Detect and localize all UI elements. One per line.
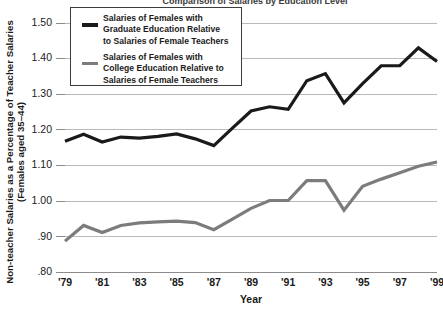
- y-axis-tick-label: 1.10: [32, 158, 53, 170]
- chart-figure: Comparison of Salaries by Education Leve…: [0, 0, 443, 315]
- x-axis-tick-label: '95: [356, 276, 370, 288]
- legend-line-swatch-college-icon: [82, 62, 98, 65]
- x-axis-tick-labels: '79'81'83'85'87'89'91'93'95'97'99: [58, 276, 443, 288]
- x-axis-tick-label: '89: [244, 276, 258, 288]
- legend-item-graduate: Salaries of Females with Graduate Educat…: [77, 13, 237, 47]
- y-axis-title-line-1: Non-teacher Salaries as a Percentage of …: [4, 20, 15, 284]
- legend-swatch-wrap-graduate: [77, 13, 103, 27]
- x-axis-tick-label: '83: [132, 276, 146, 288]
- y-axis-title-line-2: (Females aged 35–44): [15, 102, 26, 202]
- y-axis-title: Non-teacher Salaries as a Percentage of …: [4, 20, 26, 284]
- x-axis-tick-label: '99: [430, 276, 443, 288]
- tickmarks-group: [56, 23, 65, 273]
- legend-label-graduate: Salaries of Females with Graduate Educat…: [103, 13, 228, 47]
- chart-legend: Salaries of Females with Graduate Educat…: [70, 7, 242, 86]
- chart-title: Comparison of Salaries by Education Leve…: [162, 0, 347, 6]
- x-axis-tick-label: '87: [207, 276, 221, 288]
- y-axis-tick-label: 1.00: [32, 194, 53, 206]
- chart-title-group: Comparison of Salaries by Education Leve…: [162, 0, 347, 6]
- legend-label-college: Salaries of Females with College Educati…: [103, 52, 224, 86]
- y-axis-tick-label: 1.40: [32, 51, 53, 63]
- x-axis-title: Year: [240, 293, 262, 305]
- x-axis-tick-label: '79: [58, 276, 72, 288]
- y-axis-tick-label: 1.30: [32, 87, 53, 99]
- x-axis-tick-label: '81: [95, 276, 109, 288]
- y-axis-tick-label: .80: [37, 265, 52, 277]
- x-axis-tick-label: '91: [281, 276, 295, 288]
- legend-line-swatch-graduate-icon: [82, 23, 98, 27]
- legend-swatch-wrap-college: [77, 52, 103, 65]
- y-axis-tick-label: .90: [37, 230, 52, 242]
- y-axis-tick-label: 1.50: [32, 16, 53, 28]
- legend-item-college: Salaries of Females with College Educati…: [77, 52, 237, 86]
- x-axis-tick-label: '93: [318, 276, 332, 288]
- x-axis-tick-label: '85: [170, 276, 184, 288]
- y-axis-tick-labels: 1.501.401.301.201.101.00.90.80: [32, 16, 53, 278]
- x-axis-tick-label: '97: [393, 276, 407, 288]
- y-axis-tick-label: 1.20: [32, 123, 53, 135]
